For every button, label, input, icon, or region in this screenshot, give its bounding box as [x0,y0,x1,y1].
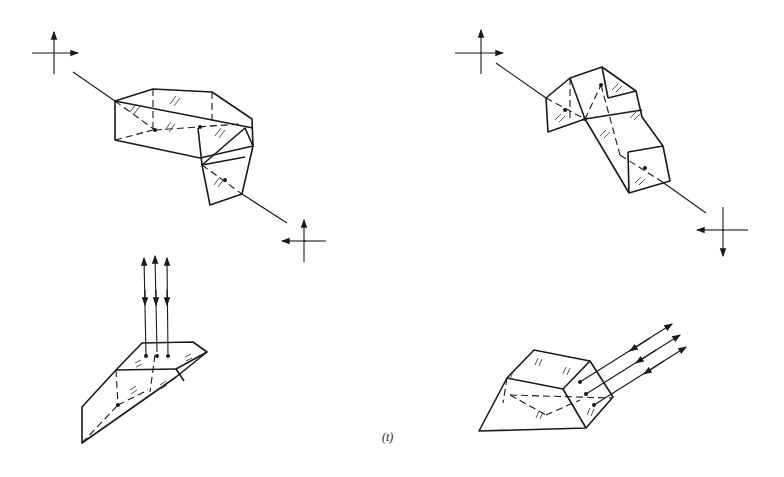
input-polarization-cross-icon [32,32,78,74]
figure-caption: (t) [382,430,393,445]
vertical-ray-bundle [144,256,168,356]
roof-prism [82,342,207,443]
prism [479,350,613,431]
panel-bottom-right [479,324,686,431]
compound-prism [546,67,670,193]
panel-top-left [32,32,326,262]
input-polarization-cross-icon [455,30,503,74]
output-polarization-cross-icon [282,220,326,262]
figure-canvas [0,0,784,477]
output-polarization-cross-icon [697,207,748,256]
oblique-ray-bundle [580,324,686,405]
output-ray [242,194,287,223]
input-ray [496,63,546,98]
output-ray [661,181,706,213]
panel-top-right [455,30,748,256]
input-ray [73,72,115,101]
compound-prism [115,89,253,205]
panel-bottom-left [82,256,207,443]
